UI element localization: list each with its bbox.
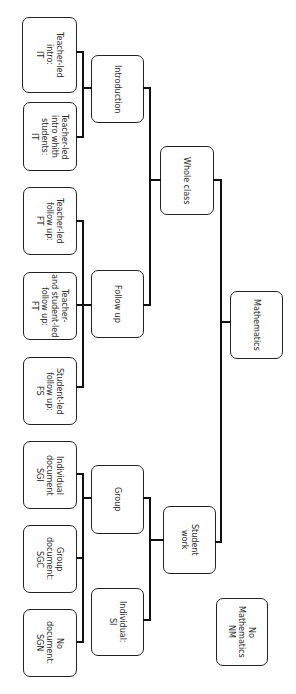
node-label: Follow up xyxy=(113,285,123,323)
node-student-work: Student work xyxy=(163,506,216,574)
node-introduction: Introduction xyxy=(91,55,144,123)
node-label: Mathematics xyxy=(252,299,262,351)
node-teacher-led-intro: Teacher-led intro: IT xyxy=(22,17,77,93)
node-label: No document: SGN xyxy=(35,621,65,664)
node-individual-document: Individual document SGI xyxy=(23,441,77,509)
connector xyxy=(149,497,151,621)
node-group-document: Group document: SGC xyxy=(23,525,77,593)
node-teacher-led-intro-with-students: Teacher-led intro whith students: IT xyxy=(23,102,77,171)
node-label: Group xyxy=(113,487,123,511)
node-label: Teacher-led intro whith students: IT xyxy=(30,114,70,160)
node-no-document: No document: SGN xyxy=(23,609,77,677)
node-label: Teacher-led follow up: FT xyxy=(35,198,65,244)
node-label: Group document: SGC xyxy=(35,537,65,580)
node-follow-up: Follow up xyxy=(91,270,144,338)
node-teacher-led-follow-up: Teacher-led follow up: FT xyxy=(23,187,77,255)
node-no-mathematics: No Mathematics NM xyxy=(216,598,268,666)
tree-diagram: Teacher-led intro: IT Teacher-led intro … xyxy=(0,0,296,694)
node-label: Individual: SI xyxy=(108,601,128,643)
connector xyxy=(149,87,151,306)
node-label: Teacher- and student-led follow up: FT xyxy=(30,274,70,337)
connector xyxy=(82,87,92,89)
node-label: No Mathematics NM xyxy=(227,606,257,658)
node-group: Group xyxy=(91,465,144,534)
node-label: Student-led follow up: FS xyxy=(35,368,65,415)
connector xyxy=(82,497,92,499)
node-label: Teacher-led intro: IT xyxy=(35,32,65,78)
node-teacher-and-student-led-follow-up: Teacher- and student-led follow up: FT xyxy=(23,272,77,340)
node-label: Individual document SGI xyxy=(35,455,65,496)
node-whole-class: Whole class xyxy=(160,146,214,215)
connector xyxy=(76,304,92,306)
node-individual: Individual: SI xyxy=(91,588,144,656)
connector xyxy=(82,51,84,138)
connector xyxy=(220,321,231,323)
connector xyxy=(82,220,84,388)
connector xyxy=(149,179,161,181)
connector xyxy=(149,539,164,541)
node-mathematics: Mathematics xyxy=(230,291,283,359)
node-label: Introduction xyxy=(113,65,123,113)
node-label: Whole class xyxy=(182,157,192,204)
node-label: Student work xyxy=(180,524,200,556)
node-student-led-follow-up: Student-led follow up: FS xyxy=(23,357,77,425)
connector xyxy=(220,179,222,543)
